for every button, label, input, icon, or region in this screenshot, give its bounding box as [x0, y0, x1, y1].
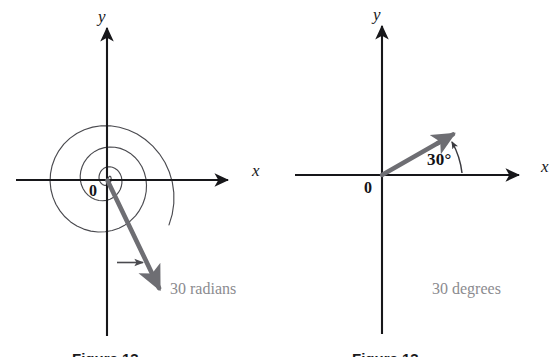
origin-label: 0	[89, 183, 97, 199]
origin-label: 0	[364, 180, 372, 196]
degrees-caption: 30 degrees	[432, 281, 501, 297]
x-axis-label: x	[252, 162, 260, 179]
spiral-curve	[50, 126, 174, 232]
y-axis-label: y	[98, 8, 106, 25]
y-axis-label: y	[373, 6, 381, 23]
radians-caption: 30 radians	[170, 281, 236, 297]
angle-arc-icon	[452, 142, 462, 173]
radians-diagram-svg	[0, 0, 280, 358]
degrees-diagram-svg	[277, 0, 557, 358]
panel-30-degrees: y x 0 30° 30 degrees Figure 13	[277, 0, 557, 358]
terminal-ray	[108, 181, 160, 289]
angle-measure-label: 30°	[427, 151, 451, 168]
x-axis-label: x	[541, 158, 549, 175]
panel-30-radians: y x 0 30 radians Figure 13	[0, 0, 280, 358]
figure-caption-left: Figure 13	[72, 351, 139, 357]
figure-page: y x 0 30 radians Figure 13	[0, 0, 557, 358]
figure-caption-right: Figure 13	[352, 351, 419, 357]
